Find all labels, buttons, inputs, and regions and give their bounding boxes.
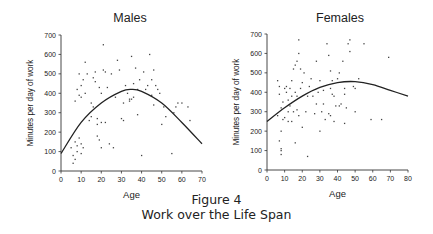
data-point <box>303 72 304 73</box>
data-point <box>89 120 90 121</box>
data-point <box>75 141 76 142</box>
data-point <box>127 93 128 94</box>
y-tick-label: 400 <box>250 89 262 96</box>
data-point <box>171 153 172 154</box>
data-point <box>141 155 142 156</box>
data-point <box>339 105 340 106</box>
data-point <box>298 115 299 116</box>
data-point <box>107 87 108 88</box>
data-point <box>101 93 102 94</box>
data-point <box>147 85 148 86</box>
data-point <box>291 121 292 122</box>
x-tick-label: 20 <box>298 175 306 182</box>
data-point <box>83 147 84 148</box>
data-point <box>310 78 311 79</box>
y-tick-label: 500 <box>44 70 56 77</box>
data-point <box>115 97 116 98</box>
x-tick-label: 10 <box>77 176 85 183</box>
data-point <box>151 79 152 80</box>
data-point <box>307 96 308 97</box>
data-point <box>363 43 364 44</box>
data-point <box>81 143 82 144</box>
data-point <box>342 61 343 62</box>
data-point <box>279 140 280 141</box>
data-point <box>119 69 120 70</box>
data-point <box>328 55 329 56</box>
data-point <box>79 95 80 96</box>
data-point <box>81 85 82 86</box>
data-point <box>337 78 338 79</box>
data-point <box>135 67 136 68</box>
y-tick-label: 700 <box>250 31 262 38</box>
data-point <box>293 111 294 112</box>
fit-curve <box>267 81 408 121</box>
x-tick-label: 60 <box>369 175 377 182</box>
data-point <box>95 81 96 82</box>
data-point <box>79 137 80 138</box>
data-point <box>293 68 294 69</box>
data-point <box>79 73 80 74</box>
data-point <box>296 109 297 110</box>
x-tick-label: 80 <box>404 175 412 182</box>
data-point <box>318 92 319 93</box>
y-tick-label: 500 <box>250 69 262 76</box>
data-point <box>281 148 282 149</box>
data-point <box>295 142 296 143</box>
data-point <box>129 99 130 100</box>
data-point <box>326 43 327 44</box>
data-point <box>344 94 345 95</box>
data-point <box>281 107 282 108</box>
data-point <box>133 97 134 98</box>
data-point <box>300 68 301 69</box>
data-point <box>335 105 336 106</box>
data-point <box>286 92 287 93</box>
x-tick-label: 50 <box>351 175 359 182</box>
data-point <box>101 147 102 148</box>
data-point <box>149 54 150 55</box>
data-point <box>93 106 94 107</box>
data-point <box>288 99 289 100</box>
data-point <box>77 151 78 152</box>
data-point <box>85 62 86 63</box>
data-point <box>279 86 280 87</box>
data-point <box>291 80 292 81</box>
data-point <box>97 118 98 119</box>
data-point <box>133 83 134 84</box>
data-point <box>123 102 124 103</box>
data-point <box>123 120 124 121</box>
data-point <box>330 70 331 71</box>
chart-title: Females <box>316 11 364 25</box>
data-point <box>157 89 158 90</box>
data-point <box>103 44 104 45</box>
y-tick-label: 600 <box>44 51 56 58</box>
data-point <box>121 118 122 119</box>
data-point <box>281 154 282 155</box>
data-point <box>314 113 315 114</box>
data-point <box>319 131 320 132</box>
data-point <box>93 77 94 78</box>
y-tick-label: 100 <box>44 148 56 155</box>
data-point <box>105 122 106 123</box>
data-point <box>325 119 326 120</box>
data-point <box>298 39 299 40</box>
data-point <box>129 100 130 101</box>
data-point <box>175 106 176 107</box>
x-tick-label: 70 <box>386 175 394 182</box>
data-point <box>344 88 345 89</box>
data-point <box>316 103 317 104</box>
data-point <box>131 99 132 100</box>
data-point <box>289 105 290 106</box>
data-point <box>109 143 110 144</box>
data-point <box>346 107 347 108</box>
data-point <box>321 111 322 112</box>
data-point <box>316 61 317 62</box>
y-tick-label: 0 <box>258 167 262 174</box>
data-point <box>99 139 100 140</box>
data-point <box>330 115 331 116</box>
data-point <box>295 64 296 65</box>
data-point <box>370 119 371 120</box>
data-point <box>279 94 280 95</box>
data-point <box>161 124 162 125</box>
data-point <box>296 96 297 97</box>
data-point <box>332 80 333 81</box>
